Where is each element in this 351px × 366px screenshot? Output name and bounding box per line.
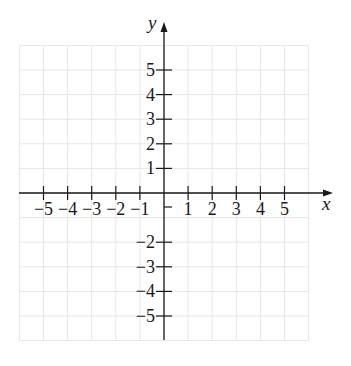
x-tick-label: 1 xyxy=(184,199,193,219)
x-tick-label: −1 xyxy=(130,199,149,219)
y-tick-label: −4 xyxy=(136,281,155,301)
x-tick-label: −4 xyxy=(58,199,77,219)
y-tick-label: −2 xyxy=(136,232,155,252)
y-tick-label: 1 xyxy=(146,158,155,178)
y-tick-label: 2 xyxy=(146,134,155,154)
x-axis-label: x xyxy=(321,193,331,214)
x-tick-label: 3 xyxy=(232,199,241,219)
x-tick-label: 4 xyxy=(256,199,265,219)
x-tick-label: −3 xyxy=(82,199,101,219)
coordinate-plane: −5−4−3−2−11234554321−2−3−4−5 x y xyxy=(0,0,351,366)
x-tick-label: −5 xyxy=(34,199,53,219)
y-axis-arrow-icon xyxy=(161,22,168,32)
y-tick-label: −5 xyxy=(136,306,155,326)
x-tick-label: 2 xyxy=(208,199,217,219)
x-tick-label: 5 xyxy=(280,199,289,219)
y-tick-label: 5 xyxy=(146,60,155,80)
y-tick-label: −3 xyxy=(136,257,155,277)
x-tick-label: −2 xyxy=(106,199,125,219)
y-tick-label: 4 xyxy=(146,85,155,105)
y-tick-label: 3 xyxy=(146,109,155,129)
y-axis-label: y xyxy=(146,12,157,33)
